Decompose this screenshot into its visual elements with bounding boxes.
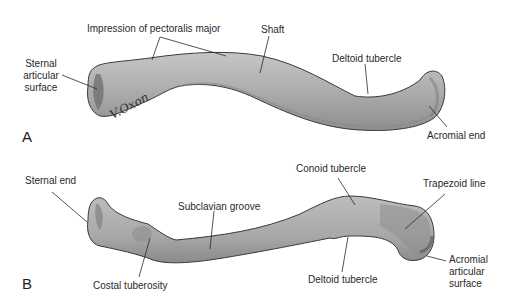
clavicle-diagram: Impression of pectoralis major Shaft Ste… xyxy=(0,0,512,301)
panel-letter-b: B xyxy=(22,275,32,292)
label-sternal-end: Sternal end xyxy=(25,175,76,187)
label-subclavian-groove: Subclavian groove xyxy=(178,201,260,213)
label-acromial-articular-surface: Acromial articular surface xyxy=(449,254,488,290)
label-trapezoid-line: Trapezoid line xyxy=(423,178,485,190)
label-acromial-end: Acromial end xyxy=(427,130,485,142)
label-conoid-tubercle: Conoid tubercle xyxy=(296,163,366,175)
label-sternal-articular-surface-a: Sternal articular surface xyxy=(20,58,62,94)
label-deltoid-tubercle-a: Deltoid tubercle xyxy=(332,53,401,65)
label-costal-tuberosity: Costal tuberosity xyxy=(93,280,167,292)
label-deltoid-tubercle-b: Deltoid tubercle xyxy=(308,274,377,286)
clavicle-view-b xyxy=(88,196,435,263)
label-impression-pectoralis-major: Impression of pectoralis major xyxy=(87,23,220,35)
label-shaft: Shaft xyxy=(261,24,284,36)
panel-letter-a: A xyxy=(22,128,32,145)
clavicle-illustration xyxy=(0,0,512,301)
